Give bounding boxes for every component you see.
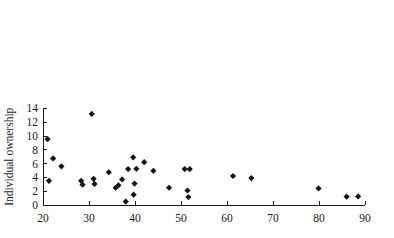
x-tick-label: 80 [313, 212, 325, 224]
x-tick-label: 20 [37, 212, 49, 224]
x-tick-label: 60 [221, 212, 233, 224]
y-tick-label: 12 [27, 116, 39, 128]
data-point [130, 154, 136, 160]
data-point [133, 166, 139, 172]
data-points-layer [45, 111, 362, 205]
data-point [131, 192, 137, 198]
data-point [125, 166, 131, 172]
y-tick-label: 10 [27, 130, 39, 142]
data-point [184, 187, 190, 193]
y-tick-label: 0 [32, 199, 38, 211]
x-tick-label: 40 [129, 212, 141, 224]
y-tick-label: 6 [32, 158, 38, 170]
data-point [119, 176, 125, 182]
data-point [150, 168, 156, 174]
data-point [123, 198, 129, 204]
data-point [106, 169, 112, 175]
x-tick-label: 90 [359, 212, 371, 224]
data-point [344, 194, 350, 200]
scatter-plot-canvas: 02468101214 2030405060708090 Individual … [0, 0, 394, 238]
data-point [91, 181, 97, 187]
y-tick-label: 8 [32, 144, 38, 156]
data-point [131, 181, 137, 187]
y-axis: 02468101214 [27, 102, 48, 211]
data-point [91, 176, 97, 182]
scatter-plot-figure: 02468101214 2030405060708090 Individual … [0, 0, 394, 238]
data-point [248, 175, 254, 181]
data-point [58, 163, 64, 169]
data-point [46, 178, 52, 184]
y-axis-title: Individual ownership [3, 107, 16, 205]
data-point [166, 185, 172, 191]
data-point [89, 111, 95, 117]
data-point [45, 136, 51, 142]
axis-labels-layer: Individual ownership [3, 107, 16, 205]
data-point [141, 159, 147, 165]
data-point [315, 185, 321, 191]
data-point [355, 193, 361, 199]
data-point [187, 166, 193, 172]
x-tick-label: 30 [83, 212, 95, 224]
x-tick-label: 70 [267, 212, 279, 224]
data-point [185, 194, 191, 200]
y-tick-label: 14 [27, 102, 39, 114]
x-tick-label: 50 [175, 212, 187, 224]
x-axis: 2030405060708090 [37, 201, 371, 224]
data-point [50, 155, 56, 161]
y-tick-label: 4 [32, 171, 38, 183]
data-point [230, 173, 236, 179]
y-tick-label: 2 [32, 185, 38, 197]
